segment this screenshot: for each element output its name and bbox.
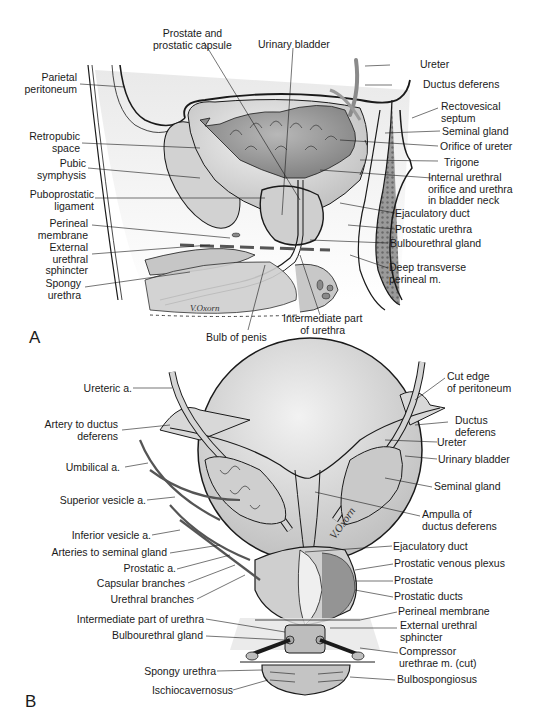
label-deep-transverse-perineal-m: Deep transverse perineal m. bbox=[389, 262, 466, 285]
label-urinary-bladder-a: Urinary bladder bbox=[258, 39, 330, 51]
label-perineal-membrane-b: Perineal membrane bbox=[398, 606, 490, 618]
label-orifice-of-ureter: Orifice of ureter bbox=[440, 141, 512, 153]
label-perineal-membrane-a: Perineal membrane bbox=[20, 218, 88, 241]
label-seminal-gland-a: Seminal gland bbox=[442, 126, 509, 138]
panel-a-drawing: V.Oxorn bbox=[88, 60, 412, 317]
label-bulbourethral-gland-a: Bulbourethral gland bbox=[390, 238, 481, 250]
label-prostatic-a: Prostatic a. bbox=[20, 563, 176, 575]
label-cut-edge-of-peritoneum: Cut edge of peritoneum bbox=[447, 371, 511, 394]
label-bulb-of-penis: Bulb of penis bbox=[206, 332, 267, 344]
label-prostatic-venous-plexus: Prostatic venous plexus bbox=[394, 558, 505, 570]
label-ischiocavernosus: Ischiocavernosus bbox=[20, 685, 233, 697]
label-urethral-branches: Urethral branches bbox=[20, 594, 194, 606]
label-trigone: Trigone bbox=[444, 157, 479, 169]
label-ampulla-of-ductus-deferens: Ampulla of ductus deferens bbox=[422, 509, 497, 532]
label-seminal-gland-b: Seminal gland bbox=[434, 481, 501, 493]
label-prostatic-urethra: Prostatic urethra bbox=[395, 224, 472, 236]
anatomy-figure: V.Oxorn bbox=[0, 0, 535, 718]
label-spongy-urethra-b: Spongy urethra bbox=[20, 666, 216, 678]
label-prostate-and-prostatic-capsule: Prostate and prostatic capsule bbox=[153, 28, 232, 51]
label-ductus-deferens-a: Ductus deferens bbox=[423, 79, 499, 91]
label-umbilical-a: Umbilical a. bbox=[20, 462, 120, 474]
label-ureteric-a: Ureteric a. bbox=[20, 383, 132, 395]
label-compressor-urethrae: Compressor urethrae m. (cut) bbox=[399, 646, 477, 669]
label-rectovesical-septum: Rectovesical septum bbox=[441, 101, 501, 124]
label-pubic-symphysis: Pubic symphysis bbox=[20, 158, 86, 181]
panel-letter-b: B bbox=[25, 692, 36, 712]
label-ejaculatory-duct-a: Ejaculatory duct bbox=[395, 208, 470, 220]
label-inferior-vesicle-a: Inferior vesicle a. bbox=[20, 530, 151, 542]
panel-letter-a: A bbox=[29, 328, 40, 348]
label-external-urethral-sphincter-a: External urethral sphincter bbox=[20, 242, 88, 277]
label-retropubic-space: Retropubic space bbox=[20, 131, 80, 154]
label-prostatic-ducts: Prostatic ducts bbox=[394, 591, 463, 603]
label-spongy-urethra-a: Spongy urethra bbox=[20, 278, 81, 301]
label-superior-vesicle-a: Superior vesicle a. bbox=[20, 495, 146, 507]
label-ureter-a: Ureter bbox=[420, 59, 449, 71]
label-bulbourethral-gland-b: Bulbourethral gland bbox=[20, 630, 203, 642]
label-urinary-bladder-b: Urinary bladder bbox=[438, 454, 510, 466]
label-intermediate-part-of-urethra-a: Intermediate part of urethra bbox=[283, 313, 362, 336]
label-parietal-peritoneum: Parietal peritoneum bbox=[20, 72, 77, 95]
panel-a-signature: V.Oxorn bbox=[190, 303, 220, 313]
label-ureter-b: Ureter bbox=[437, 437, 466, 449]
label-external-urethral-sphincter-b: External urethral sphincter bbox=[400, 620, 477, 643]
label-ejaculatory-duct-b: Ejaculatory duct bbox=[393, 541, 468, 553]
label-ductus-deferens-b: Ductus deferens bbox=[455, 415, 496, 438]
label-artery-to-ductus-deferens: Artery to ductus deferens bbox=[20, 419, 118, 442]
label-prostate-b: Prostate bbox=[394, 575, 433, 587]
label-arteries-to-seminal-gland: Arteries to seminal gland bbox=[20, 547, 167, 559]
label-intermediate-part-of-urethra-b: Intermediate part of urethra bbox=[20, 614, 204, 626]
label-internal-urethral-orifice: Internal urethral orifice and urethra in… bbox=[428, 172, 513, 207]
label-capsular-branches: Capsular branches bbox=[20, 578, 185, 590]
label-puboprostatic-ligament: Puboprostatic ligament bbox=[20, 189, 94, 212]
label-bulbospongiosus: Bulbospongiosus bbox=[397, 674, 477, 686]
